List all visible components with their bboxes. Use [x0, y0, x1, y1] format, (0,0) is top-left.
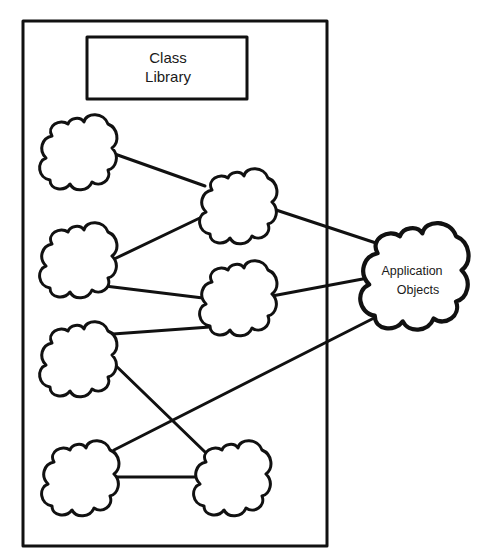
edge-c3-cB [113, 327, 210, 334]
cloud-node-cC [194, 441, 271, 516]
edge-c1-cA [112, 153, 205, 186]
edge-cA-app [270, 208, 376, 243]
application-objects-node: Application Objects [360, 223, 468, 330]
edge-c3-cC [112, 362, 205, 452]
cloud-node-c2 [40, 223, 117, 298]
cloud-node-c1 [40, 115, 117, 190]
class-library-label-line2: Library [145, 68, 191, 85]
cloud-node-c3 [40, 322, 117, 397]
class-library-label-line1: Class [149, 49, 187, 66]
application-objects-label-line1: Application [381, 264, 442, 278]
edge-c2-cB [105, 286, 203, 298]
cloud-node-cA [200, 169, 277, 244]
class-library-box: Class Library [87, 37, 247, 99]
application-objects-label-line2: Objects [397, 283, 439, 297]
edge-c2-cA [110, 216, 204, 261]
diagram-canvas: Class Library Application Objects [0, 0, 489, 560]
edge-cB-app [272, 278, 368, 296]
cloud-node-cB [200, 261, 277, 336]
cloud-node-c4 [42, 441, 119, 516]
